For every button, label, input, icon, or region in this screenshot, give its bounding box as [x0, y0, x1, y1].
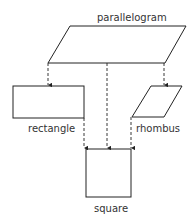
- rectangle-shape: [13, 86, 84, 118]
- parallelogram-node: parallelogram: [48, 12, 186, 63]
- square-shape: [86, 149, 131, 197]
- square-node: square: [86, 149, 131, 214]
- rhombus-label: rhombus: [136, 123, 180, 134]
- rhombus-node: rhombus: [132, 86, 182, 134]
- square-label: square: [94, 203, 128, 214]
- rectangle-node: rectangle: [13, 86, 84, 134]
- rectangle-label: rectangle: [28, 123, 75, 134]
- parallelogram-shape: [48, 26, 186, 63]
- rhombus-shape: [132, 86, 182, 117]
- quadrilateral-hierarchy-diagram: parallelogram rectangle rhombus square: [0, 0, 194, 219]
- parallelogram-label: parallelogram: [97, 12, 167, 23]
